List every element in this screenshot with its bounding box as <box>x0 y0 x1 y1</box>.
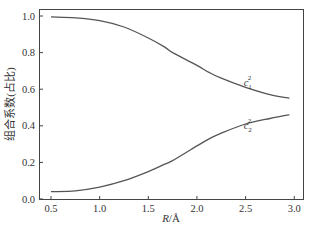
plot-frame <box>40 10 304 200</box>
line-chart: 0.51.01.52.02.53.0 0.00.20.40.60.81.0 c1… <box>0 0 309 231</box>
x-axis-label-unit: /Å <box>169 212 180 224</box>
series-lines <box>51 17 289 192</box>
series-line-1 <box>51 17 289 98</box>
y-tick-label: 0.2 <box>22 157 35 168</box>
chart-container: 0.51.01.52.02.53.0 0.00.20.40.60.81.0 c1… <box>0 0 309 231</box>
series-line-2 <box>51 115 289 192</box>
y-tick-label: 1.0 <box>22 11 35 22</box>
x-tick-label: 2.5 <box>239 203 252 214</box>
y-tick-label: 0.4 <box>22 120 36 131</box>
y-tick-label: 0.8 <box>22 47 35 58</box>
curve-label-1: c12 <box>244 74 253 91</box>
y-tick-label: 0.0 <box>22 194 35 205</box>
x-tick-label: 1.5 <box>142 203 155 214</box>
x-tick-label: 2.0 <box>190 203 203 214</box>
y-tick-label: 0.6 <box>22 84 35 95</box>
curve-label-2: c22 <box>244 117 253 134</box>
x-tick-label: 0.5 <box>44 203 57 214</box>
x-axis-label: R/Å <box>161 212 180 224</box>
x-tick-label: 1.0 <box>93 203 106 214</box>
x-tick-label: 3.0 <box>288 203 301 214</box>
curve-labels: c12c22 <box>244 74 253 134</box>
y-axis-label: 组合系数(占比) <box>3 67 17 141</box>
